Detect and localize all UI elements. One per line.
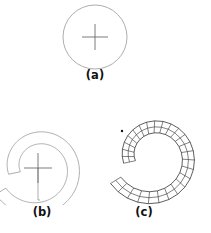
- panel-c-spiral-mesh-diagram: [105, 100, 211, 205]
- caption-b: (b): [22, 205, 62, 219]
- mesh-cell-group: [111, 121, 195, 204]
- panel-b-spiral-outline-diagram: [0, 100, 105, 205]
- figure-root: (a) (b) (c): [0, 0, 211, 233]
- spiral-annulus-outline: [0, 132, 79, 205]
- caption-a: (a): [75, 68, 115, 82]
- mesh-circumferential-line: [121, 133, 183, 192]
- mesh-start-marker-dot: [121, 130, 123, 132]
- caption-c: (c): [124, 205, 164, 219]
- mesh-radial-line: [111, 177, 121, 183]
